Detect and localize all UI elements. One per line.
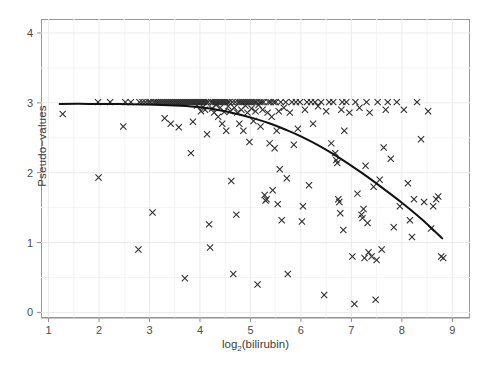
gridlines-minor: [41, 19, 470, 318]
scatter-point: [95, 174, 101, 180]
scatter-point: [318, 99, 324, 105]
scatter-point: [414, 99, 420, 105]
x-tick-label: 6: [298, 324, 304, 336]
scatter-point: [411, 196, 417, 202]
scatter-point: [240, 128, 246, 134]
scatter-point: [219, 121, 225, 127]
scatter-point: [176, 124, 182, 130]
scatter-point: [421, 199, 427, 205]
scatter-point: [206, 221, 212, 227]
scatter-point: [394, 99, 400, 105]
scatter-point: [149, 209, 155, 215]
scatter-point: [341, 128, 347, 134]
x-tick-label: 7: [348, 324, 354, 336]
scatter-point: [229, 99, 235, 105]
scatter-point: [277, 166, 283, 172]
scatter-point: [363, 99, 369, 105]
x-tick-label: 3: [146, 324, 152, 336]
scatter-point: [349, 253, 355, 259]
scatter-point: [248, 105, 254, 111]
scatter-point: [373, 297, 379, 303]
scatter-point: [162, 115, 168, 121]
scatter-point: [354, 191, 360, 197]
scatter-markers: [60, 99, 447, 307]
scatter-point: [375, 99, 381, 105]
x-tick-label: 2: [96, 324, 102, 336]
x-axis-title: log2(bilirubin): [41, 338, 470, 353]
scatter-point: [368, 253, 374, 259]
scatter-point: [190, 119, 196, 125]
x-tick-label: 5: [247, 324, 253, 336]
scatter-point: [168, 121, 174, 127]
scatter-point: [223, 128, 229, 134]
figure: 123456789 01234 Pseudo−values log2(bilir…: [0, 0, 488, 366]
x-axis-title-base: log: [222, 338, 237, 350]
x-tick-label: 8: [399, 324, 405, 336]
scatter-point: [409, 234, 415, 240]
scatter-point: [135, 246, 141, 252]
scatter-point: [391, 224, 397, 230]
scatter-point: [279, 217, 285, 223]
scatter-point: [379, 246, 385, 252]
y-tick-label: 0: [17, 306, 33, 318]
scatter-point: [254, 281, 260, 287]
scatter-point: [425, 108, 431, 114]
y-tick-label: 1: [17, 237, 33, 249]
scatter-point: [418, 136, 424, 142]
scatter-point: [361, 255, 367, 261]
scatter-point: [340, 227, 346, 233]
scatter-point: [371, 184, 377, 190]
scatter-point: [257, 123, 263, 129]
scatter-point: [366, 110, 372, 116]
scatter-point: [377, 177, 383, 183]
scatter-point: [274, 128, 280, 134]
scatter-point: [236, 121, 242, 127]
scatter-point: [315, 103, 321, 109]
scatter-point: [310, 121, 316, 127]
x-tick-label: 9: [449, 324, 455, 336]
scatter-point: [435, 193, 441, 199]
scatter-point: [381, 144, 387, 150]
x-axis-title-rest: (bilirubin): [242, 338, 289, 350]
scatter-point: [330, 99, 336, 105]
y-axis-title: Pseudo−values: [36, 66, 48, 226]
scatter-point: [302, 107, 308, 113]
y-tick-label: 3: [17, 97, 33, 109]
scatter-point: [233, 212, 239, 218]
scatter-point: [360, 206, 366, 212]
y-tick-label: 4: [17, 27, 33, 39]
scatter-point: [272, 145, 278, 151]
scatter-point: [351, 301, 357, 307]
scatter-point: [312, 99, 318, 105]
scatter-point: [291, 142, 297, 148]
scatter-point: [299, 218, 305, 224]
scatter-point: [352, 99, 358, 105]
scatter-point: [297, 99, 303, 105]
scatter-point: [215, 114, 221, 120]
x-tick-label: 1: [46, 324, 52, 336]
scatter-point: [204, 131, 210, 137]
scatter-point: [287, 110, 293, 116]
scatter-point: [430, 203, 436, 209]
scatter-point: [281, 105, 287, 111]
scatter-point: [60, 111, 66, 117]
scatter-point: [306, 182, 312, 188]
scatter-point: [269, 114, 275, 120]
scatter-point: [285, 271, 291, 277]
scatter-point: [385, 99, 391, 105]
scatter-point: [364, 220, 370, 226]
scatter-point: [276, 108, 282, 114]
axis-tick-marks: [37, 33, 470, 322]
scatter-point: [252, 108, 258, 114]
scatter-point: [120, 123, 126, 129]
scatter-point: [407, 217, 413, 223]
scatter-point: [356, 105, 362, 111]
scatter-point: [337, 210, 343, 216]
scatter-point: [343, 99, 349, 105]
gridlines-major: [41, 19, 470, 318]
scatter-point: [207, 244, 213, 250]
scatter-point: [188, 150, 194, 156]
scatter-point: [228, 178, 234, 184]
plot-canvas: [0, 0, 488, 366]
scatter-point: [388, 156, 394, 162]
